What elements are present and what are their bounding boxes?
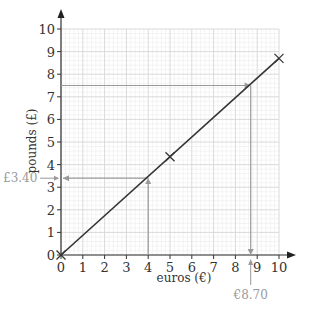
- y-tick-label: 1: [47, 225, 55, 240]
- y-tick-label: 7: [47, 90, 55, 105]
- x-tick-label: 8: [231, 260, 239, 275]
- x-axis-title: euros (€): [157, 271, 212, 285]
- y-tick-label: 6: [47, 112, 55, 127]
- annotation-arrow-right-icon: [54, 176, 59, 181]
- x-tick-label: 9: [253, 260, 261, 275]
- x-tick-label: 2: [100, 260, 108, 275]
- y-axis-title: pounds (£): [25, 108, 39, 173]
- y-axis-arrow-icon: [58, 9, 65, 18]
- y-tick-label: 2: [47, 203, 55, 218]
- x-tick-label: 4: [144, 260, 152, 275]
- y-tick-labels: 012345678910: [38, 22, 61, 263]
- x-tick-label: 1: [79, 260, 87, 275]
- conversion-graph: 012345678910 012345678910 £3.40 €8.70 eu…: [0, 0, 309, 309]
- major-grid: [61, 29, 279, 255]
- x-tick-label: 10: [271, 260, 288, 275]
- y-tick-label: 3: [47, 180, 55, 195]
- x-tick-label: 3: [122, 260, 130, 275]
- annotation-euros-value: €8.70: [233, 288, 268, 302]
- x-axis-arrow-icon: [287, 252, 296, 259]
- y-tick-label: 9: [47, 45, 55, 60]
- y-axis: [58, 9, 65, 255]
- y-tick-label: 5: [47, 135, 55, 150]
- guide-arrow-left-icon: [63, 175, 69, 181]
- x-tick-label: 0: [57, 260, 65, 275]
- y-tick-label: 10: [38, 22, 55, 37]
- y-tick-label: 8: [47, 67, 55, 82]
- y-tick-label: 0: [47, 248, 55, 263]
- y-tick-label: 4: [47, 158, 55, 173]
